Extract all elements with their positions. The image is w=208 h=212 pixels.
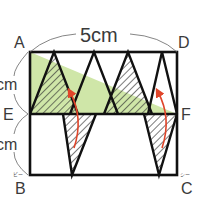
vertex-label-a: A	[14, 34, 25, 51]
top-dimension-arc-right	[130, 34, 177, 52]
ruby-b: ビー	[13, 171, 23, 177]
vertex-label-d: D	[178, 34, 190, 51]
upper-hatched-triangle-2	[104, 52, 152, 114]
top-dimension-arc-left	[30, 34, 76, 52]
top-dimension-label: 5cm	[80, 24, 118, 46]
ruby-c: シー	[180, 171, 190, 177]
vertex-label-e: E	[3, 106, 14, 123]
vertex-label-c: C	[181, 180, 193, 197]
geometry-diagram: 5cm A D cm E F cm ビー B シー C	[0, 0, 208, 212]
vertex-label-b: B	[15, 180, 26, 197]
vertex-label-f: F	[181, 106, 191, 123]
left-upper-dimension-label: cm	[0, 76, 17, 93]
left-lower-dimension-label: cm	[0, 136, 17, 153]
